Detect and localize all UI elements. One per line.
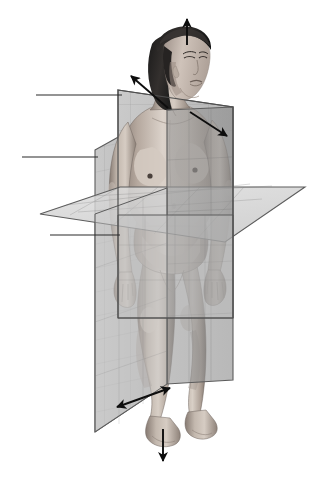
sagittal-plane-lower xyxy=(118,215,233,318)
anatomical-planes-figure xyxy=(0,0,336,478)
anatomical-planes-illustration xyxy=(0,0,336,478)
